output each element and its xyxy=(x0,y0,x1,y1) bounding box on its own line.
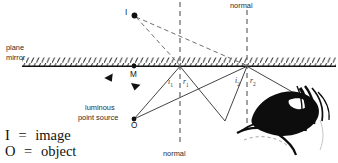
eye-illustration xyxy=(237,86,329,155)
label-source-line1: luminous xyxy=(85,104,115,112)
ray-O-to-M2 xyxy=(134,66,247,119)
legend-meaning-image: image xyxy=(35,127,70,143)
legend-row-image: I = image xyxy=(5,128,71,144)
label-mirror-point: M xyxy=(130,71,137,80)
arrowhead-incident-1 xyxy=(104,71,116,83)
legend-symbol-I: I xyxy=(5,127,10,143)
arrowhead-ray-2 xyxy=(131,81,141,90)
label-normal-top: normal xyxy=(230,2,253,10)
legend-equals-2: = xyxy=(19,143,37,159)
label-source-line2: point source xyxy=(78,114,118,122)
angle-i1-sub: 1 xyxy=(170,82,173,88)
legend-meaning-object: object xyxy=(41,143,76,159)
label-mirror: mirror xyxy=(6,54,25,62)
angle-i2-sub: 2 xyxy=(237,81,240,87)
label-object-point: O xyxy=(131,122,137,131)
legend-equals-1: = xyxy=(13,127,31,143)
legend-symbol-O: O xyxy=(5,143,15,159)
angle-r1-sub: 1 xyxy=(186,82,189,88)
label-image-point: I xyxy=(125,9,127,18)
legend-row-object: O = object xyxy=(5,144,76,160)
reflected-ray-M1-to-vertex xyxy=(180,66,225,121)
point-marker-mirror xyxy=(132,64,137,69)
label-plane: plane xyxy=(6,44,24,52)
mirror-reflection-diagram: plane mirror normal normal I M O luminou… xyxy=(0,0,338,163)
point-marker-image xyxy=(132,13,138,19)
label-angle-r2: r2 xyxy=(250,77,256,87)
angle-r2-sub: 2 xyxy=(253,81,256,87)
label-angle-r1: r1 xyxy=(183,78,189,88)
incident-ray-O-to-M1 xyxy=(134,66,180,119)
label-normal-bottom: normal xyxy=(163,150,186,158)
label-angle-i1: i1 xyxy=(168,78,173,88)
label-angle-i2: i2 xyxy=(235,77,240,87)
